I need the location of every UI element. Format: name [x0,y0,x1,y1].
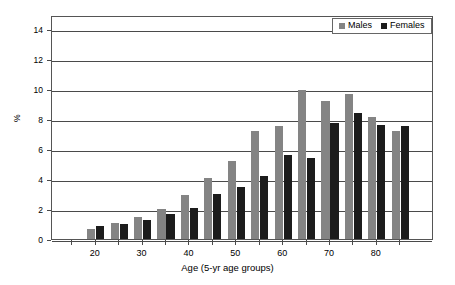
bar-females-85 [401,126,409,239]
bar-males-75 [345,94,353,239]
legend-swatch-males-icon [339,23,345,29]
y-tick-label: 12 [17,56,43,65]
bar-females-30 [143,220,151,239]
bar-females-60 [284,155,292,239]
x-tick-label: 30 [127,248,157,258]
x-tick-label: 70 [314,248,344,258]
bar-females-35 [166,214,174,239]
bar-males-25 [111,223,119,239]
y-tick-label: 4 [17,176,43,185]
x-tick-label: 50 [220,248,250,258]
bar-males-85 [392,131,400,239]
gridline [52,241,432,242]
legend-label-females: Females [390,21,425,30]
bar-males-50 [228,161,236,239]
bar-males-80 [368,117,376,239]
x-tick-label: 20 [80,248,110,258]
bar-females-80 [377,125,385,239]
gridline [52,61,432,62]
legend-swatch-females-icon [381,23,387,29]
x-axis-title: Age (5-yr age groups) [0,262,455,273]
bar-females-40 [190,208,198,239]
bar-females-45 [213,194,221,239]
bar-males-45 [204,178,212,239]
legend-entry-males: Males [339,21,372,30]
bar-males-35 [157,209,165,239]
y-tick-label: 2 [17,206,43,215]
gridline [52,91,432,92]
y-tick-label: 8 [17,116,43,125]
x-tick-label: 40 [173,248,203,258]
legend-entry-females: Females [381,21,425,30]
y-tick-label: 14 [17,26,43,35]
bar-males-70 [321,101,329,239]
bar-males-20 [87,229,95,239]
bar-males-65 [298,90,306,239]
bar-females-70 [330,123,338,239]
bar-females-25 [120,224,128,239]
bar-males-55 [251,131,259,239]
x-tick-label: 60 [267,248,297,258]
bar-males-60 [275,126,283,239]
bar-females-55 [260,176,268,239]
bar-males-40 [181,195,189,239]
bar-females-50 [237,187,245,239]
bar-males-30 [134,217,142,239]
y-tick-label: 0 [17,236,43,245]
plot-area [51,16,433,240]
y-tick-label: 10 [17,86,43,95]
bar-females-65 [307,158,315,239]
x-tick-label: 80 [361,248,391,258]
chart-legend: Males Females [332,18,432,34]
y-tick-label: 6 [17,146,43,155]
bar-chart: % Age (5-yr age groups) 02468101214 2030… [0,0,455,285]
bar-females-75 [354,113,362,239]
bar-females-20 [96,226,104,239]
legend-label-males: Males [348,21,372,30]
